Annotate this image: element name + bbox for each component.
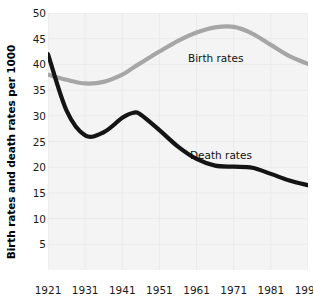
chart-figure: Birth rates and death rates per 1000 510… [0,0,313,304]
series-label-birth-rates: Birth rates [188,52,243,64]
y-tick-label: 35 [22,85,46,96]
x-tick-label: 1941 [109,284,136,297]
series-label-death-rates: Death rates [190,149,252,161]
y-axis-tick-labels: 5101520253035404550 [22,0,46,304]
grid-lines [48,13,308,270]
plot-area: Birth rates Death rates [48,13,308,270]
y-tick-label: 20 [22,162,46,173]
x-tick-label: 1921 [35,284,62,297]
y-tick-label: 15 [22,187,46,198]
series-lines [48,26,308,185]
x-tick-label: 1961 [183,284,210,297]
series-line-birth-rates [48,26,308,83]
x-axis-tick-labels: 19211931194119511961197119811991 [0,284,313,304]
y-tick-label: 50 [22,8,46,19]
y-tick-label: 10 [22,213,46,224]
series-line-death-rates [48,54,308,185]
y-tick-label: 25 [22,136,46,147]
plot-svg [48,13,308,270]
y-tick-label: 40 [22,59,46,70]
x-tick-label: 1951 [146,284,173,297]
y-tick-label: 45 [22,33,46,44]
y-tick-label: 5 [22,239,46,250]
x-tick-label: 1981 [257,284,284,297]
x-tick-label: 1971 [220,284,247,297]
y-tick-label: 30 [22,110,46,121]
x-tick-label: 1991 [295,284,313,297]
x-tick-label: 1931 [72,284,99,297]
